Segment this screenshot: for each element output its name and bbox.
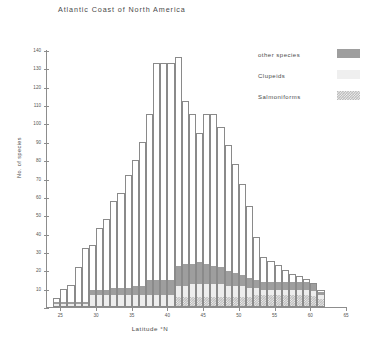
bar-segment-other-species (261, 282, 266, 289)
chart-title: Atlantic Coast of North America (58, 5, 186, 14)
bar-segment-clupeids (61, 304, 66, 306)
bar-segment-salmoniforms (318, 299, 323, 306)
legend-item-salmoniforms: Salmoniforms (258, 90, 364, 111)
x-tick-label: 45 (201, 313, 206, 318)
bar-segment-other-species (118, 288, 123, 295)
bar-segment-salmoniforms (211, 297, 216, 306)
bar-lat-30 (96, 228, 103, 307)
bar-lat-28 (82, 248, 89, 307)
bar-lat-24 (53, 298, 60, 307)
bar-segment-other-species (197, 262, 202, 284)
bar-segment-other-species (276, 282, 281, 289)
bar-segment-other-species (290, 282, 295, 289)
legend-swatch (337, 91, 360, 100)
bar-segment-clupeids (183, 286, 188, 297)
bar-segment-clupeids (133, 295, 138, 306)
bar-segment-other-species (154, 280, 159, 295)
bar-lat-46 (210, 114, 217, 307)
bar-segment-other-species (111, 288, 116, 295)
y-tick-label: 100 (33, 122, 41, 127)
bar-lat-27 (75, 267, 82, 307)
bar-lat-57 (289, 274, 296, 307)
bar-segment-clupeids (147, 295, 152, 306)
bar-lat-34 (125, 175, 132, 307)
bar-segment-other-species (283, 282, 288, 289)
bar-segment-salmoniforms (176, 297, 181, 306)
bar-segment-salmoniforms (290, 295, 295, 306)
bar-segment-clupeids (204, 284, 209, 297)
bar-lat-26 (67, 285, 74, 307)
x-tick-label: 50 (236, 313, 241, 318)
bar-segment-clupeids (104, 295, 109, 306)
chart-legend: other speciesClupeidsSalmoniforms (258, 48, 364, 111)
bar-lat-52 (253, 237, 260, 307)
x-tick-label: 65 (343, 313, 348, 318)
y-tick-label: 10 (36, 288, 41, 293)
bar-segment-clupeids (111, 295, 116, 306)
bar-lat-36 (139, 142, 146, 307)
bar-lat-39 (160, 63, 167, 307)
bar-segment-clupeids (197, 284, 202, 297)
bar-segment-other-species (233, 273, 238, 286)
x-tick-label: 35 (129, 313, 134, 318)
bar-segment-clupeids (90, 295, 95, 306)
y-tick-mark (44, 51, 49, 52)
y-tick-label: 130 (33, 67, 41, 72)
bar-segment-other-species (268, 282, 273, 289)
bar-lat-45 (203, 114, 210, 307)
bar-segment-other-species (133, 286, 138, 295)
bar-segment-other-species (161, 280, 166, 295)
bar-segment-other-species (297, 282, 302, 289)
bar-segment-salmoniforms (311, 296, 316, 306)
bar-lat-40 (167, 63, 174, 307)
bar-lat-51 (246, 206, 253, 307)
y-tick-mark (44, 290, 49, 291)
bar-lat-41 (175, 57, 182, 307)
chart-figure: Atlantic Coast of North America 10203040… (0, 0, 368, 349)
bar-segment-other-species (168, 280, 173, 295)
bar-segment-clupeids (247, 288, 252, 297)
x-tick-mark (239, 307, 240, 311)
bar-segment-other-species (183, 264, 188, 286)
x-tick-mark (203, 307, 204, 311)
bar-lat-35 (132, 160, 139, 307)
bar-segment-clupeids (190, 284, 195, 297)
bar-segment-other-species (226, 271, 231, 286)
y-tick-mark (44, 271, 49, 272)
bar-segment-salmoniforms (190, 297, 195, 306)
x-tick-mark (346, 307, 347, 311)
legend-item-other-species: other species (258, 48, 364, 69)
bar-lat-37 (146, 114, 153, 307)
bar-lat-61 (317, 290, 324, 307)
bar-lat-60 (310, 283, 317, 307)
bar-segment-other-species (211, 266, 216, 284)
y-tick-mark (44, 88, 49, 89)
bar-segment-clupeids (176, 286, 181, 297)
bar-segment-clupeids (233, 286, 238, 297)
x-tick-mark (310, 307, 311, 311)
x-tick-mark (96, 307, 97, 311)
bar-segment-clupeids (218, 284, 223, 297)
bar-segment-salmoniforms (297, 295, 302, 306)
bar-lat-31 (103, 219, 110, 307)
bar-lat-55 (275, 265, 282, 307)
y-tick-label: 80 (36, 159, 41, 164)
bar-segment-clupeids (54, 304, 59, 306)
bar-lat-56 (282, 270, 289, 307)
bar-segment-salmoniforms (226, 297, 231, 306)
bar-segment-salmoniforms (240, 297, 245, 306)
legend-label: other species (258, 52, 300, 58)
legend-swatch (337, 49, 360, 58)
bar-segment-salmoniforms (197, 297, 202, 306)
bar-segment-clupeids (76, 304, 81, 306)
bar-segment-salmoniforms (276, 295, 281, 306)
y-tick-mark (44, 235, 49, 236)
legend-label: Salmoniforms (258, 94, 301, 100)
y-tick-label: 60 (36, 196, 41, 201)
bar-segment-salmoniforms (254, 295, 259, 306)
y-tick-mark (44, 216, 49, 217)
y-tick-mark (44, 69, 49, 70)
bar-lat-32 (110, 201, 117, 307)
legend-swatch (337, 70, 360, 79)
bar-segment-clupeids (254, 288, 259, 295)
